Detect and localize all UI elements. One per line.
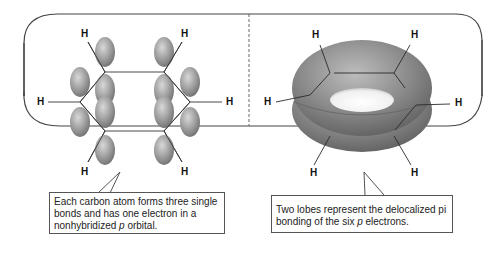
h-label-bottom-left: H [310, 167, 317, 178]
caption-text: orbital. [125, 220, 158, 231]
h-label-bottom-right: H [411, 167, 418, 178]
caption-text: electrons. [363, 216, 409, 227]
h-label-top-left: H [81, 28, 88, 39]
caption-text: bonding of the six [276, 216, 357, 227]
h-label-left: H [37, 96, 44, 107]
left-callout-pointer [98, 172, 120, 193]
h-label-top-left: H [312, 29, 319, 40]
h-label-right: H [455, 97, 462, 108]
h-label-left: H [264, 96, 271, 107]
right-caption: Two lobes represent the delocalized pi b… [271, 195, 453, 233]
right-caption-line-2: bonding of the six p electrons. [276, 216, 448, 228]
h-label-top-right: H [181, 28, 188, 39]
left-caption-line-2: bonds and has one electron in a [54, 208, 220, 220]
h-label-bottom-right: H [181, 166, 188, 177]
p-orbital-diagram [48, 37, 222, 165]
left-caption: Each carbon atom forms three single bond… [49, 192, 225, 234]
right-caption-line-1: Two lobes represent the delocalized pi [276, 204, 448, 216]
left-caption-line-3: nonhybridized p orbital. [54, 220, 220, 232]
caption-text: nonhybridized [54, 220, 119, 231]
delocalized-pi-diagram [276, 40, 450, 165]
right-callout-pointer [364, 172, 384, 195]
left-caption-line-1: Each carbon atom forms three single [54, 196, 220, 208]
h-label-bottom-left: H [81, 166, 88, 177]
h-label-top-right: H [411, 29, 418, 40]
h-label-right: H [226, 96, 233, 107]
